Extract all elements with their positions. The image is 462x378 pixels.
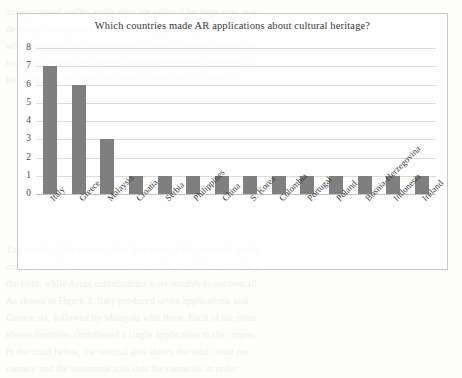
bleed-line: As shown in Figure 3, Italy produced sev…	[6, 293, 456, 310]
bleed-line: Greece six, followed by Malaysia with th…	[6, 310, 456, 327]
bar-series	[36, 48, 436, 194]
y-axis-tick-label: 4	[26, 116, 31, 126]
y-axis-tick-label: 3	[26, 135, 31, 145]
bleed-line: eleven countries contributed a single ap…	[6, 327, 456, 344]
chart-title: Which countries made AR applications abo…	[18, 20, 447, 31]
bar	[100, 139, 114, 194]
y-axis-tick-label: 5	[26, 98, 31, 108]
y-axis-tick-label: 8	[26, 43, 31, 53]
plot-area: 012345678	[36, 48, 436, 194]
y-axis-tick-label: 7	[26, 62, 31, 72]
y-axis-tick-label: 2	[26, 153, 31, 163]
bleed-line: the field, while Asian contributions wer…	[6, 276, 456, 293]
bar	[43, 66, 57, 194]
bleed-line: In the chart below, the vertical axis sh…	[6, 344, 456, 361]
x-axis-labels: ItalyGreeceMalaysiaCroatiaSerbiaPhilippi…	[36, 196, 436, 270]
chart-figure: Which countries made AR applications abo…	[17, 13, 448, 270]
y-axis-tick-label: 1	[26, 171, 31, 181]
bar	[72, 85, 86, 195]
y-axis-tick-label: 6	[26, 80, 31, 90]
bleed-line: country and the horizontal axis lists th…	[6, 361, 456, 378]
y-axis-tick-label: 0	[26, 189, 31, 199]
